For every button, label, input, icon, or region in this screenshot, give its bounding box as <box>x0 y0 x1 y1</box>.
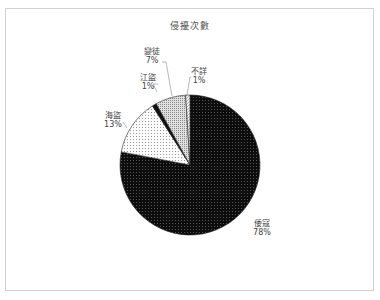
slice-label-percent: 1% <box>193 76 206 85</box>
slice-label-percent: 7% <box>146 56 159 65</box>
slice-label-category: 變徒 <box>144 46 160 56</box>
slice-label-percent: 13% <box>104 120 122 129</box>
slice-label-category: 倭寇 <box>254 218 270 228</box>
slice-label-percent: 78% <box>253 228 271 237</box>
slice-label-category: 不詳 <box>191 66 207 76</box>
pie-chart: 倭寇78%海盜13%江盜1%變徒7%不詳1% <box>0 0 380 300</box>
slice-label-percent: 1% <box>142 82 155 91</box>
slice-label-category: 江盜 <box>140 72 156 82</box>
pie-slices <box>120 95 260 235</box>
slice-label-category: 海盜 <box>105 110 121 120</box>
